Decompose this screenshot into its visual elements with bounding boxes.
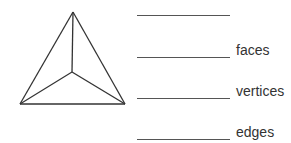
tetrahedron-figure bbox=[0, 0, 145, 143]
vertices-blank[interactable] bbox=[137, 98, 230, 99]
answer-blank[interactable] bbox=[137, 15, 230, 16]
faces-label: faces bbox=[236, 42, 269, 58]
edges-blank[interactable] bbox=[137, 139, 230, 140]
faces-blank[interactable] bbox=[137, 57, 230, 58]
edges-label: edges bbox=[236, 124, 274, 140]
vertices-label: vertices bbox=[236, 83, 284, 99]
